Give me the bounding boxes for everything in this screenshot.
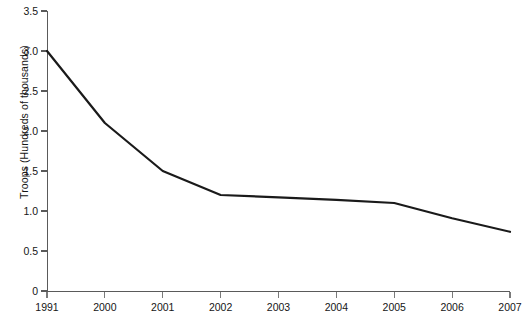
x-tick-label: 1991 <box>22 301 72 313</box>
y-tick-mark <box>41 170 47 171</box>
y-tick-mark <box>41 130 47 131</box>
x-tick-mark <box>336 292 337 298</box>
x-tick-label: 2003 <box>254 301 304 313</box>
x-tick-mark <box>394 292 395 298</box>
y-tick-label: 3.5 <box>6 6 38 16</box>
troops-line-series <box>47 51 510 232</box>
x-tick-label: 2002 <box>196 301 246 313</box>
y-tick-mark <box>41 50 47 51</box>
y-tick-label: 1.0 <box>6 206 38 216</box>
y-tick-label: 2.0 <box>6 126 38 136</box>
x-tick-label: 2006 <box>427 301 477 313</box>
y-tick-mark <box>41 250 47 251</box>
x-tick-mark <box>220 292 221 298</box>
y-tick-mark <box>41 90 47 91</box>
x-tick-label: 2001 <box>138 301 188 313</box>
y-tick-mark <box>41 10 47 11</box>
x-tick-mark <box>162 292 163 298</box>
x-tick-mark <box>278 292 279 298</box>
x-tick-mark <box>46 292 47 298</box>
x-tick-label: 2007 <box>485 301 526 313</box>
y-tick-label: 0 <box>6 286 38 296</box>
x-tick-mark <box>452 292 453 298</box>
x-tick-mark <box>104 292 105 298</box>
y-tick-label: 1.5 <box>6 166 38 176</box>
x-tick-label: 2004 <box>311 301 361 313</box>
y-tick-label: 0.5 <box>6 246 38 256</box>
x-tick-label: 2005 <box>369 301 419 313</box>
y-tick-label: 3.0 <box>6 46 38 56</box>
y-tick-mark <box>41 210 47 211</box>
y-tick-label: 2.5 <box>6 86 38 96</box>
x-tick-mark <box>509 292 510 298</box>
x-tick-label: 2000 <box>80 301 130 313</box>
y-axis-line <box>47 11 48 292</box>
